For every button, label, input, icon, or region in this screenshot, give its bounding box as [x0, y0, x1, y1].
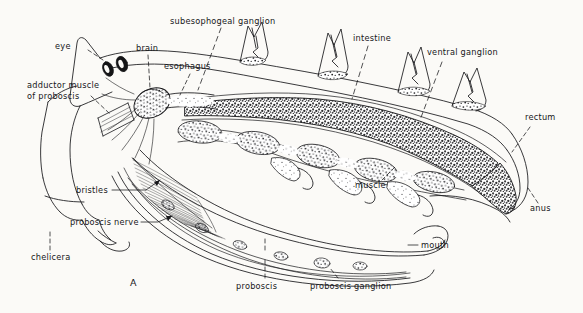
label-intestine: intestine	[353, 33, 391, 44]
label-chelicera: chelicera	[31, 252, 70, 263]
panel-letter: A	[130, 277, 137, 288]
label-brain: brain	[136, 43, 158, 54]
label-rectum: rectum	[525, 112, 556, 123]
label-proboscis: proboscis	[236, 281, 277, 292]
label-esophagus: esophagus	[164, 61, 211, 72]
label-subesophogeal-ganglion: subesophogeal ganglion	[170, 16, 275, 27]
label-mouth: mouth	[421, 240, 449, 251]
label-proboscis-ganglion: proboscis ganglion	[310, 281, 391, 292]
label-proboscis-nerve: proboscis nerve	[70, 217, 139, 228]
label-muscle: muscle	[355, 180, 386, 191]
label-anus: anus	[530, 203, 551, 214]
label-ventral-ganglion: ventral ganglion	[427, 47, 498, 58]
label-bristles: bristles	[76, 185, 108, 196]
label-adductor-muscle-of-proboscis: adductor muscle of proboscis	[27, 80, 99, 102]
label-eye: eye	[55, 41, 71, 52]
figure-anatomical-diagram: eye brain adductor muscle of proboscis e…	[0, 0, 583, 313]
